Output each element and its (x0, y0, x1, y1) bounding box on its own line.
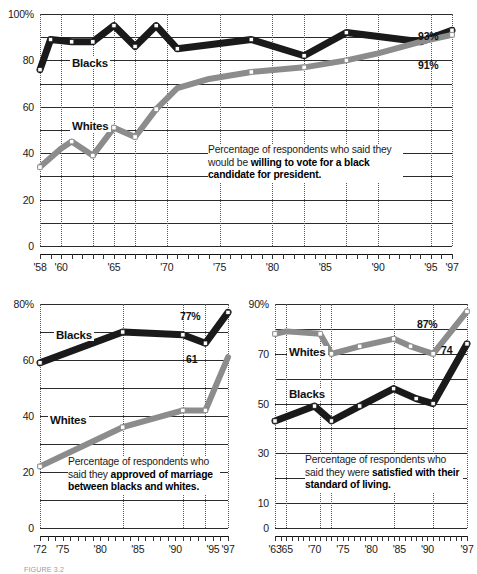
data-point-marker (318, 332, 322, 336)
series-end-value: 61 (186, 353, 197, 365)
x-axis-tick (331, 536, 332, 541)
y-axis-tick-label: 60 (23, 101, 34, 113)
x-axis-tick (294, 254, 295, 259)
x-axis-tick (377, 536, 378, 541)
data-point-marker (358, 404, 362, 408)
y-axis-tick-label: 40 (23, 147, 34, 159)
x-axis-tick (272, 254, 273, 259)
x-axis-tick (153, 536, 154, 541)
data-point-marker (450, 33, 454, 37)
data-point-marker (302, 54, 306, 58)
data-point-marker (465, 342, 469, 346)
y-axis-tick-label: 90% (249, 298, 269, 310)
data-point-marker (112, 23, 116, 27)
x-axis-tick (367, 254, 368, 259)
x-axis-tick (241, 254, 242, 259)
x-axis-tick (325, 254, 326, 259)
x-axis-tick-label: '70 (308, 543, 321, 555)
x-axis-tick (51, 254, 52, 259)
x-axis-line (40, 536, 228, 537)
x-axis-tick (336, 254, 337, 259)
x-axis-tick (103, 254, 104, 259)
x-axis-tick (177, 254, 178, 259)
x-axis-tick-label: '85 (319, 261, 332, 273)
series-end-value: 91% (418, 59, 438, 71)
data-point-marker (38, 165, 42, 169)
x-axis-tick (168, 536, 169, 541)
x-axis-tick (262, 254, 263, 259)
y-axis-tick-label: 80% (14, 298, 34, 310)
x-axis-tick (70, 536, 71, 541)
series-label-whites: Whites (70, 120, 111, 132)
grid-line-vertical (452, 14, 453, 246)
x-axis-tick (416, 536, 417, 541)
x-axis-tick (450, 536, 451, 541)
x-axis-tick (315, 536, 316, 541)
x-axis-line (40, 254, 452, 255)
figure-caption: FIGURE 3.2 (24, 566, 64, 574)
x-axis-tick (389, 254, 390, 259)
x-axis-tick (115, 536, 116, 541)
x-axis-tick (354, 536, 355, 541)
data-point-marker (175, 47, 179, 51)
data-point-marker (226, 310, 230, 314)
x-axis-tick (123, 536, 124, 541)
series-layer (275, 304, 467, 528)
x-axis-tick (72, 254, 73, 259)
x-axis-tick (213, 536, 214, 541)
data-point-marker (91, 153, 95, 157)
chart-caption: Percentage of respondents who said they … (68, 456, 220, 494)
x-axis-tick-label: '90 (372, 261, 385, 273)
x-axis-tick (220, 254, 221, 259)
y-axis-tick-label: 40 (23, 410, 34, 422)
x-axis-tick (382, 536, 383, 541)
x-axis-tick (146, 254, 147, 259)
x-axis-tick (114, 254, 115, 259)
x-axis-tick (461, 536, 462, 541)
data-point-marker (302, 65, 306, 69)
x-axis-tick (422, 536, 423, 541)
x-axis-tick (360, 536, 361, 541)
chart-satisfied-standard-of-living: 01030507090%'63'65'70'75'80'85'90'97Whit… (239, 292, 477, 562)
x-axis-tick (145, 536, 146, 541)
x-axis-tick (337, 536, 338, 541)
data-point-marker (344, 58, 348, 62)
data-point-marker (358, 344, 362, 348)
x-axis-tick (183, 536, 184, 541)
data-point-marker (48, 37, 52, 41)
grid-line-vertical (467, 304, 468, 528)
x-axis-tick (309, 536, 310, 541)
x-axis-tick (399, 536, 400, 541)
x-axis-tick-label: '80 (94, 543, 107, 555)
series-end-value: 87% (417, 318, 437, 330)
x-axis-tick (283, 254, 284, 259)
data-point-marker (112, 125, 116, 129)
y-axis-tick-label: 0 (28, 522, 34, 534)
x-axis-tick (420, 254, 421, 259)
x-axis-tick (198, 254, 199, 259)
chart-caption: Percentage of respondents who said they … (208, 144, 403, 182)
x-axis-tick-label: '97 (221, 543, 234, 555)
x-axis-tick (292, 536, 293, 541)
data-point-marker (38, 464, 42, 468)
plot-area-top: 020406080100%'58'60'65'70'75'80'85'90'95… (40, 14, 452, 246)
x-axis-tick (427, 536, 428, 541)
x-axis-tick (275, 536, 276, 541)
x-axis-tick (371, 536, 372, 541)
x-axis-tick (326, 536, 327, 541)
data-point-marker (414, 396, 418, 400)
y-axis-tick-label: 20 (23, 466, 34, 478)
x-axis-tick-label: '72 (33, 543, 46, 555)
data-point-marker (69, 40, 73, 44)
x-axis-tick (348, 536, 349, 541)
x-axis-tick (441, 254, 442, 259)
y-axis-tick-label: 50 (258, 398, 269, 410)
x-axis-tick-label: '60 (55, 261, 68, 273)
data-point-marker (431, 352, 435, 356)
x-axis-tick (320, 536, 321, 541)
x-axis-tick (315, 254, 316, 259)
x-axis-tick (167, 254, 168, 259)
series-label-blacks: Blacks (287, 388, 327, 400)
series-end-value: 77% (180, 310, 200, 322)
x-axis-tick (405, 536, 406, 541)
